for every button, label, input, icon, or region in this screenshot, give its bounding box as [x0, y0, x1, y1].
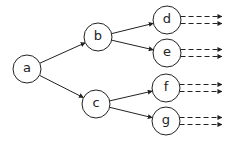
edge-a-b: [40, 43, 85, 63]
node-label-e: e: [153, 39, 181, 67]
tree-diagram: abcdefg: [0, 0, 236, 143]
node-label-d: d: [153, 6, 181, 34]
edge-c-g: [110, 107, 153, 117]
edge-a-c: [39, 75, 83, 97]
edge-b-e: [112, 40, 154, 50]
edge-b-d: [112, 23, 154, 33]
node-label-a: a: [13, 55, 41, 83]
node-label-f: f: [152, 74, 180, 102]
node-label-g: g: [152, 107, 180, 135]
node-label-b: b: [84, 23, 112, 51]
node-label-c: c: [82, 90, 110, 118]
continuation-edges: [180, 17, 222, 125]
edge-c-f: [110, 91, 153, 101]
